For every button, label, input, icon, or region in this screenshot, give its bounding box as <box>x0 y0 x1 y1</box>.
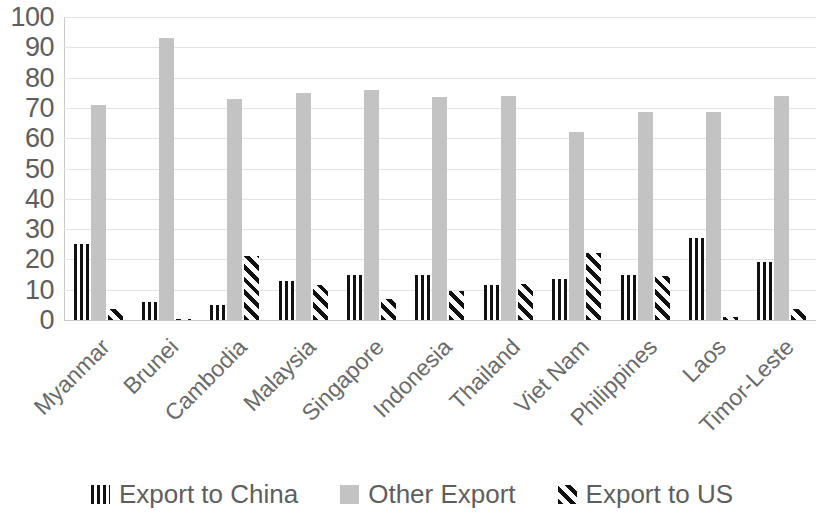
bar-groups <box>64 17 816 320</box>
bar-other-export[interactable] <box>569 132 584 320</box>
y-axis-tick-label: 90 <box>25 34 54 61</box>
legend-swatch-icon <box>558 485 577 504</box>
legend-swatch-icon <box>340 485 359 504</box>
bar-group <box>406 17 474 320</box>
bar-export-to-china[interactable] <box>484 285 499 320</box>
bar-export-to-china[interactable] <box>142 302 157 320</box>
bar-group <box>543 17 611 320</box>
bar-export-to-us[interactable] <box>449 291 464 320</box>
bar-group <box>64 17 132 320</box>
bar-other-export[interactable] <box>706 112 721 320</box>
y-axis: 1009080706050403020100 <box>0 0 62 330</box>
y-axis-tick-label: 60 <box>25 125 54 152</box>
y-axis-tick-label: 0 <box>39 307 54 334</box>
bar-export-to-us[interactable] <box>381 299 396 320</box>
legend-label: Export to China <box>119 481 298 507</box>
bar-export-to-us[interactable] <box>586 253 601 320</box>
x-axis-label-cell: Philippines <box>611 321 679 461</box>
bar-export-to-china[interactable] <box>621 275 636 320</box>
y-axis-tick-label: 30 <box>25 216 54 243</box>
bar-export-to-us[interactable] <box>244 256 259 320</box>
bar-other-export[interactable] <box>159 38 174 320</box>
x-axis-label-cell: Myanmar <box>64 321 132 461</box>
bar-export-to-china[interactable] <box>210 305 225 320</box>
bar-other-export[interactable] <box>501 96 516 320</box>
bar-other-export[interactable] <box>774 96 789 320</box>
chart-legend: Export to ChinaOther ExportExport to US <box>0 470 824 518</box>
bar-other-export[interactable] <box>227 99 242 320</box>
x-axis-label-cell: Timor-Leste <box>748 321 816 461</box>
bar-group <box>611 17 679 320</box>
bar-export-to-us[interactable] <box>518 284 533 320</box>
bar-export-to-us[interactable] <box>108 309 123 320</box>
legend-swatch-icon <box>91 485 110 504</box>
bar-export-to-us[interactable] <box>655 276 670 320</box>
plot-area <box>64 17 816 320</box>
bar-export-to-china[interactable] <box>415 275 430 320</box>
bar-export-to-china[interactable] <box>347 275 362 320</box>
y-axis-tick-label: 100 <box>10 4 54 31</box>
bar-export-to-us[interactable] <box>176 319 191 321</box>
bar-export-to-china[interactable] <box>689 238 704 320</box>
x-axis-labels: MyanmarBruneiCambodiaMalaysiaSingaporeIn… <box>64 321 816 461</box>
legend-item[interactable]: Export to US <box>558 481 733 507</box>
bar-group <box>679 17 747 320</box>
legend-label: Export to US <box>586 481 733 507</box>
y-axis-tick-label: 70 <box>25 94 54 121</box>
legend-item[interactable]: Other Export <box>340 481 515 507</box>
y-axis-tick-label: 10 <box>25 276 54 303</box>
bar-other-export[interactable] <box>432 97 447 320</box>
x-axis-tick-label: Myanmar <box>30 335 114 419</box>
x-axis-tick-label: Laos <box>678 335 730 387</box>
bar-chart: 1009080706050403020100 MyanmarBruneiCamb… <box>0 0 824 524</box>
y-axis-tick-label: 80 <box>25 64 54 91</box>
bar-export-to-china[interactable] <box>552 279 567 320</box>
bar-export-to-us[interactable] <box>723 317 738 320</box>
bar-other-export[interactable] <box>638 112 653 320</box>
bar-group <box>269 17 337 320</box>
bar-group <box>337 17 405 320</box>
bar-other-export[interactable] <box>296 93 311 320</box>
legend-item[interactable]: Export to China <box>91 481 298 507</box>
bar-other-export[interactable] <box>91 105 106 320</box>
y-axis-tick-label: 20 <box>25 246 54 273</box>
legend-label: Other Export <box>368 481 515 507</box>
bar-export-to-china[interactable] <box>757 262 772 320</box>
bar-export-to-us[interactable] <box>313 285 328 320</box>
y-axis-tick-label: 50 <box>25 155 54 182</box>
bar-group <box>748 17 816 320</box>
bar-group <box>132 17 200 320</box>
bar-export-to-china[interactable] <box>279 281 294 320</box>
bar-group <box>201 17 269 320</box>
bar-group <box>474 17 542 320</box>
y-axis-tick-label: 40 <box>25 185 54 212</box>
bar-export-to-china[interactable] <box>74 244 89 320</box>
bar-other-export[interactable] <box>364 90 379 320</box>
bar-export-to-us[interactable] <box>791 309 806 320</box>
